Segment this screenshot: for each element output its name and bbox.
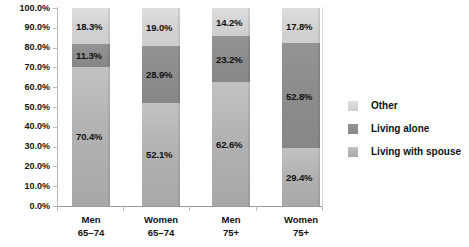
bar-value-label: 52.8% [286,90,312,101]
bar-segment-living-alone[interactable]: 28.9% [142,46,180,103]
x-axis-tick [57,206,58,211]
bar-value-label: 70.4% [76,131,102,142]
y-axis-tick [53,147,58,148]
category-line-2: 75+ [256,226,346,239]
legend-swatch-icon [348,124,358,134]
x-axis-tick [322,206,323,211]
bar-value-label: 52.1% [146,149,172,160]
bar-value-label: 18.3% [76,21,102,32]
x-axis-category-label-women-75-plus: Women 75+ [256,213,346,239]
bar-value-label: 62.6% [216,139,242,150]
legend-swatch-icon [348,101,358,111]
y-axis-tick-label: 100.0% [0,4,50,13]
bar-value-label: 23.2% [216,54,242,65]
bar-women-65-74[interactable]: 19.0% 28.9% 52.1% [142,8,180,206]
bar-segment-living-with-spouse[interactable]: 29.4% [282,148,320,206]
y-axis-tick-label: 90.0% [0,23,50,32]
legend-label: Living with spouse [371,144,461,159]
bar-segment-living-alone[interactable]: 11.3% [72,44,110,66]
bar-segment-other[interactable]: 19.0% [142,8,180,46]
y-axis-tick-label: 80.0% [0,43,50,52]
y-axis-tick-label: 10.0% [0,182,50,191]
y-axis-tick [53,107,58,108]
y-axis-tick-label: 30.0% [0,142,50,151]
bar-segment-living-alone[interactable]: 23.2% [212,36,250,82]
y-axis-tick [53,87,58,88]
y-axis-tick [53,28,58,29]
bar-segment-other[interactable]: 18.3% [72,8,110,44]
bar-women-75-plus[interactable]: 17.8% 52.8% 29.4% [282,8,320,206]
plot-right-border [322,7,323,207]
bar-segment-other[interactable]: 17.8% [282,8,320,43]
y-axis-tick-label: 50.0% [0,103,50,112]
x-axis-tick [189,206,190,211]
y-axis-tick-label: 70.0% [0,63,50,72]
y-axis-tick [53,127,58,128]
bar-value-label: 28.9% [146,69,172,80]
bar-value-label: 17.8% [286,20,312,31]
y-axis-tick [53,67,58,68]
stacked-bar-chart: 100.0% 90.0% 80.0% 70.0% 60.0% 50.0% 40.… [0,0,469,247]
bar-value-label: 14.2% [216,17,242,28]
bar-segment-living-alone[interactable]: 52.8% [282,43,320,148]
category-line-1: Women [256,213,346,226]
bar-value-label: 19.0% [146,21,172,32]
y-axis-tick-label: 0.0% [0,202,50,211]
legend-swatch-icon [348,147,358,157]
x-axis-tick [256,206,257,211]
y-axis-tick-label: 20.0% [0,162,50,171]
bar-men-75-plus[interactable]: 14.2% 23.2% 62.6% [212,8,250,206]
bar-men-65-74[interactable]: 18.3% 11.3% 70.4% [72,8,110,206]
legend-label: Living alone [371,121,429,136]
bar-value-label: 29.4% [286,171,312,182]
y-axis-tick [53,186,58,187]
bar-value-label: 11.3% [76,50,102,61]
y-axis-tick-label: 60.0% [0,83,50,92]
y-axis-tick [53,8,58,9]
bar-segment-living-with-spouse[interactable]: 70.4% [72,67,110,206]
bar-segment-living-with-spouse[interactable]: 52.1% [142,103,180,206]
bar-segment-living-with-spouse[interactable]: 62.6% [212,82,250,206]
y-axis-tick [53,48,58,49]
bar-segment-other[interactable]: 14.2% [212,8,250,36]
legend-label: Other [371,98,398,113]
y-axis-tick-label: 40.0% [0,122,50,131]
plot-area: 18.3% 11.3% 70.4% 19.0% 28.9% 52.1% [58,8,322,206]
y-axis-tick [53,166,58,167]
x-axis-tick [123,206,124,211]
x-axis-line [57,206,323,207]
